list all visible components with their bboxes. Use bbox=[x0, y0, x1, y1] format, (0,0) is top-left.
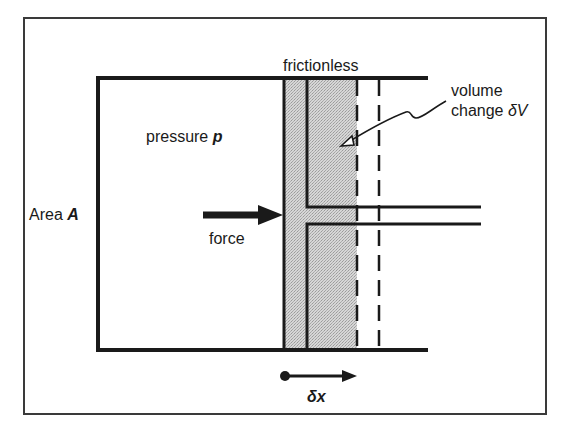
label-delta-x: δx bbox=[307, 388, 327, 405]
symbol-delta-v: δV bbox=[508, 102, 529, 119]
label-area: Area A bbox=[29, 206, 79, 223]
label-area-text: Area bbox=[29, 206, 67, 223]
force-arrow bbox=[203, 205, 283, 225]
label-pressure-text: pressure bbox=[146, 128, 213, 145]
label-volume: volume bbox=[451, 82, 503, 99]
piston-cylinder-diagram: frictionless volume change δV pressure p… bbox=[0, 0, 568, 439]
displaced-piston-outline bbox=[357, 80, 379, 349]
piston-shading bbox=[284, 79, 357, 349]
symbol-p: p bbox=[212, 128, 223, 145]
label-volume-change: change δV bbox=[451, 102, 529, 119]
label-frictionless: frictionless bbox=[283, 57, 359, 74]
label-pressure: pressure p bbox=[146, 128, 223, 145]
displacement-arrow bbox=[280, 370, 357, 382]
symbol-a: A bbox=[66, 206, 79, 223]
label-force: force bbox=[209, 230, 245, 247]
label-change-text: change bbox=[451, 102, 508, 119]
